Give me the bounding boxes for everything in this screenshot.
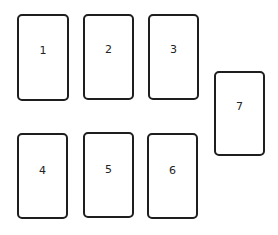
card-4: 4 xyxy=(17,133,68,219)
card-position-number: 4 xyxy=(19,165,66,176)
card-5: 5 xyxy=(83,132,134,218)
card-position-number: 5 xyxy=(85,164,132,175)
card-6: 6 xyxy=(147,133,198,219)
card-position-number: 2 xyxy=(85,44,132,55)
card-position-number: 7 xyxy=(216,101,263,112)
card-1: 1 xyxy=(17,14,69,101)
card-position-number: 1 xyxy=(19,45,67,56)
card-2: 2 xyxy=(83,14,134,100)
card-position-number: 6 xyxy=(149,165,196,176)
card-3: 3 xyxy=(148,14,199,100)
card-position-number: 3 xyxy=(150,44,197,55)
card-7: 7 xyxy=(214,71,265,156)
